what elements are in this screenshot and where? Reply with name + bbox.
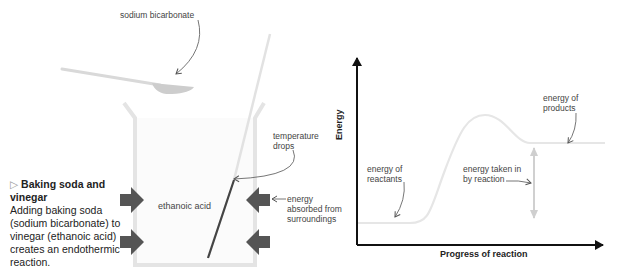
sodium-bicarbonate-label: sodium bicarbonate <box>120 10 194 20</box>
graph-axes <box>357 58 603 245</box>
spoon-icon <box>62 69 194 94</box>
y-axis-label: Energy <box>334 109 344 140</box>
sodium-bicarbonate-arrow <box>176 20 200 74</box>
x-axis-label: Progress of reaction <box>440 249 528 259</box>
beaker <box>124 103 264 265</box>
products-arrow <box>568 113 576 143</box>
caption-body: Adding baking soda (sodium bicarbonate) … <box>10 204 120 268</box>
caption: ▷Baking soda and vinegar Adding baking s… <box>10 178 130 269</box>
energy-absorbed-label: energy absorbed from surroundings <box>287 194 345 224</box>
temperature-drops-label: temperature drops <box>273 131 321 151</box>
taken-in-label: energy taken in by reaction <box>463 164 527 184</box>
reactants-arrow <box>395 182 404 217</box>
products-label: energy of products <box>543 93 587 113</box>
caption-title: Baking soda and vinegar <box>10 178 105 203</box>
reactants-label: energy of reactants <box>367 164 413 184</box>
ethanoic-acid-label: ethanoic acid <box>158 201 211 211</box>
caption-triangle-icon: ▷ <box>10 178 18 190</box>
